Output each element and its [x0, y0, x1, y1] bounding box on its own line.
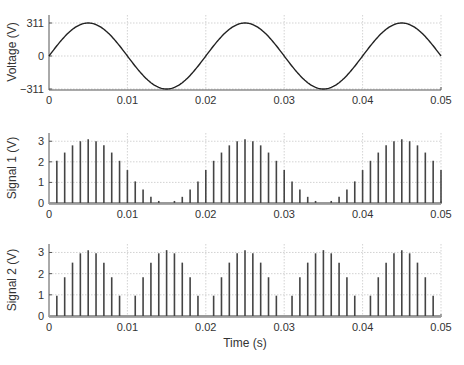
x-tick-label: 0.05: [430, 94, 451, 106]
x-tick-label: 0.04: [352, 321, 373, 333]
y-tick-label: 311: [26, 17, 44, 29]
x-tick-label: 0: [46, 94, 52, 106]
x-axis-label: Time (s): [223, 336, 267, 350]
signal1-plot: 00.010.020.030.040.050123Signal 1 (V): [5, 133, 452, 220]
y-tick-label: 0: [38, 197, 44, 209]
x-tick-label: 0.01: [117, 94, 138, 106]
x-tick-label: 0.03: [273, 94, 294, 106]
x-tick-label: 0.02: [195, 208, 216, 220]
signal2-plot: 00.010.020.030.040.050123Signal 2 (V): [5, 244, 452, 333]
figure: 00.010.020.030.040.053110−311Voltage (V)…: [0, 0, 464, 365]
x-tick-label: 0.04: [352, 94, 373, 106]
x-tick-label: 0.03: [273, 208, 294, 220]
y-tick-label: 0: [38, 310, 44, 322]
x-tick-label: 0.05: [430, 208, 451, 220]
y-axis-label: Signal 1 (V): [5, 137, 19, 200]
y-tick-label: 2: [38, 268, 44, 280]
y-tick-label: 1: [38, 176, 44, 188]
y-axis-label: Voltage (V): [5, 22, 19, 81]
x-tick-label: 0: [46, 321, 52, 333]
x-tick-label: 0.05: [430, 321, 451, 333]
x-tick-label: 0.01: [117, 321, 138, 333]
y-tick-label: −311: [20, 83, 44, 95]
y-tick-label: 1: [38, 289, 44, 301]
y-tick-label: 2: [38, 156, 44, 168]
x-tick-label: 0.01: [117, 208, 138, 220]
x-tick-label: 0.03: [273, 321, 294, 333]
x-tick-label: 0.04: [352, 208, 373, 220]
y-tick-label: 0: [38, 50, 44, 62]
y-axis-label: Signal 2 (V): [5, 249, 19, 312]
x-tick-label: 0.02: [195, 321, 216, 333]
voltage-plot: 00.010.020.030.040.053110−311Voltage (V): [5, 15, 452, 106]
y-tick-label: 3: [38, 135, 44, 147]
x-tick-label: 0: [46, 208, 52, 220]
y-tick-label: 3: [38, 246, 44, 258]
x-tick-label: 0.02: [195, 94, 216, 106]
